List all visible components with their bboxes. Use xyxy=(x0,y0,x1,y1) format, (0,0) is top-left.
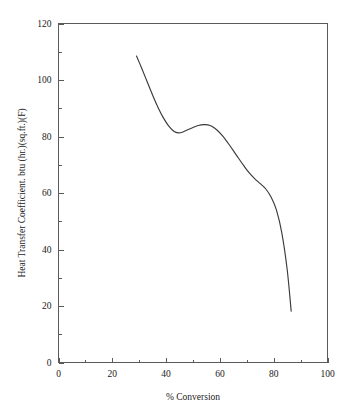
y-axis-ticks xyxy=(59,25,64,364)
y-axis-tick-labels: 020406080100120 xyxy=(37,19,52,368)
x-tick-label: 40 xyxy=(161,369,171,379)
x-axis-ticks xyxy=(60,358,329,363)
x-axis-tick-labels: 020406080100 xyxy=(56,369,335,379)
data-series-line xyxy=(137,56,292,311)
y-tick-label: 100 xyxy=(37,75,52,85)
x-tick-label: 20 xyxy=(108,369,118,379)
x-tick-label: 0 xyxy=(56,369,61,379)
x-tick-label: 100 xyxy=(320,369,335,379)
line-chart: 020406080100120 020406080100 % Conversio… xyxy=(0,0,349,417)
y-tick-label: 0 xyxy=(47,358,52,368)
y-axis-title: Heat Transfer Coefficient. btu (hr.)(sq.… xyxy=(17,108,28,277)
y-tick-label: 120 xyxy=(37,19,52,29)
y-tick-label: 80 xyxy=(42,132,52,142)
y-tick-label: 60 xyxy=(42,188,52,198)
x-axis-title: % Conversion xyxy=(166,392,220,402)
plot-frame xyxy=(58,23,328,363)
y-tick-label: 20 xyxy=(42,301,52,311)
y-tick-label: 40 xyxy=(42,245,52,255)
chart-figure: 020406080100120 020406080100 % Conversio… xyxy=(0,0,349,417)
x-tick-label: 60 xyxy=(215,369,225,379)
x-tick-label: 80 xyxy=(269,369,279,379)
